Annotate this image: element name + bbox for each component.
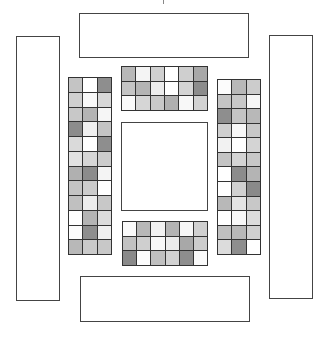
grid-cell: [247, 80, 260, 94]
grid-cell: [166, 237, 179, 251]
grid-cell: [247, 109, 260, 123]
grid-cell: [83, 93, 96, 107]
grid-cell: [83, 152, 96, 166]
grid-cell: [83, 167, 96, 181]
grid-cell: [218, 109, 231, 123]
bottom-grid: [122, 221, 208, 266]
top-box: [79, 13, 249, 58]
left-box: [16, 36, 60, 301]
grid-cell: [123, 222, 136, 236]
grid-cell: [218, 124, 231, 138]
grid-cell: [98, 211, 111, 225]
grid-cell: [232, 211, 245, 225]
grid-cell: [165, 67, 178, 81]
grid-cell: [232, 226, 245, 240]
grid-cell: [247, 124, 260, 138]
grid-cell: [69, 137, 82, 151]
grid-cell: [83, 108, 96, 122]
grid-cell: [136, 67, 149, 81]
grid-cell: [98, 137, 111, 151]
grid-cell: [137, 237, 150, 251]
grid-cell: [98, 93, 111, 107]
grid-cell: [232, 240, 245, 254]
grid-cell: [247, 211, 260, 225]
grid-cell: [232, 95, 245, 109]
grid-cell: [83, 196, 96, 210]
grid-cell: [232, 109, 245, 123]
grid-cell: [122, 82, 135, 96]
right-box: [269, 35, 313, 299]
grid-cell: [194, 96, 207, 110]
grid-cell: [69, 108, 82, 122]
grid-cell: [232, 80, 245, 94]
grid-cell: [83, 78, 96, 92]
grid-cell: [166, 222, 179, 236]
grid-cell: [69, 211, 82, 225]
grid-cell: [98, 226, 111, 240]
grid-cell: [151, 237, 164, 251]
grid-cell: [69, 152, 82, 166]
grid-cell: [179, 96, 192, 110]
grid-cell: [247, 182, 260, 196]
grid-cell: [179, 67, 192, 81]
grid-cell: [232, 197, 245, 211]
grid-cell: [98, 122, 111, 136]
grid-cell: [69, 181, 82, 195]
grid-cell: [218, 167, 231, 181]
grid-cell: [247, 167, 260, 181]
grid-cell: [165, 82, 178, 96]
grid-cell: [194, 222, 207, 236]
grid-cell: [179, 82, 192, 96]
grid-cell: [69, 78, 82, 92]
grid-cell: [69, 240, 82, 254]
grid-cell: [232, 124, 245, 138]
grid-cell: [69, 93, 82, 107]
grid-cell: [218, 95, 231, 109]
grid-cell: [218, 182, 231, 196]
grid-cell: [166, 251, 179, 265]
grid-cell: [247, 226, 260, 240]
grid-cell: [122, 67, 135, 81]
top-grid: [121, 66, 208, 111]
grid-cell: [194, 82, 207, 96]
grid-cell: [151, 251, 164, 265]
grid-cell: [123, 237, 136, 251]
grid-cell: [247, 240, 260, 254]
grid-cell: [218, 153, 231, 167]
grid-cell: [122, 96, 135, 110]
center-box: [121, 122, 208, 211]
grid-cell: [247, 197, 260, 211]
grid-cell: [123, 251, 136, 265]
grid-cell: [232, 167, 245, 181]
grid-cell: [136, 96, 149, 110]
grid-cell: [232, 138, 245, 152]
grid-cell: [98, 196, 111, 210]
grid-cell: [194, 67, 207, 81]
grid-cell: [83, 240, 96, 254]
grid-cell: [69, 226, 82, 240]
grid-cell: [218, 197, 231, 211]
grid-cell: [247, 138, 260, 152]
grid-cell: [83, 211, 96, 225]
grid-cell: [180, 251, 193, 265]
grid-cell: [151, 96, 164, 110]
right-grid: [217, 79, 261, 255]
grid-cell: [98, 152, 111, 166]
grid-cell: [151, 222, 164, 236]
grid-cell: [232, 153, 245, 167]
grid-cell: [218, 240, 231, 254]
top-tick-mark: [163, 0, 164, 4]
grid-cell: [69, 167, 82, 181]
grid-cell: [151, 82, 164, 96]
grid-cell: [194, 251, 207, 265]
grid-cell: [83, 226, 96, 240]
grid-cell: [180, 237, 193, 251]
grid-cell: [232, 182, 245, 196]
grid-cell: [137, 251, 150, 265]
grid-cell: [151, 67, 164, 81]
grid-cell: [83, 122, 96, 136]
grid-cell: [136, 82, 149, 96]
grid-cell: [69, 122, 82, 136]
grid-cell: [218, 226, 231, 240]
grid-cell: [165, 96, 178, 110]
